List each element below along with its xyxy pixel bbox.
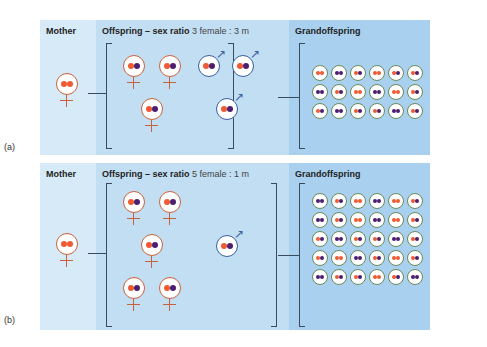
offspring-female-icon (159, 277, 181, 311)
grandoffspring-icon (350, 103, 366, 119)
grandoffspring-icon (312, 250, 328, 266)
grandoffspring-icon (369, 65, 385, 81)
offspring-female-icon (159, 191, 181, 225)
grandoffspring-icon (388, 65, 404, 81)
offspring-male-icon: ↗ (216, 227, 246, 257)
grandoffspring-icon (350, 193, 366, 209)
grandoffspring-icon (407, 65, 423, 81)
grandoffspring-icon (388, 103, 404, 119)
grandoffspring-icon (350, 84, 366, 100)
offspring-female-icon (123, 55, 145, 89)
grandoffspring-icon (331, 231, 347, 247)
panel-b: Mother Offspring – sex ratio 5 female : … (0, 163, 487, 330)
offspring-female-icon (159, 55, 181, 89)
mother-female-icon (56, 73, 78, 107)
grandoffspring-icon (331, 65, 347, 81)
grandoffspring-icon (407, 212, 423, 228)
grandoffspring-header: Grandoffspring (295, 169, 361, 179)
panel-a: Mother Offspring – sex ratio 3 female : … (0, 20, 487, 155)
offspring-female-icon (123, 277, 145, 311)
grandoffspring-icon (312, 103, 328, 119)
grandoffspring-icon (388, 84, 404, 100)
grandoffspring-icon (312, 212, 328, 228)
grandoffspring-icon (369, 193, 385, 209)
offspring-bracket-left (106, 183, 112, 327)
grandoffspring-icon (407, 269, 423, 285)
offspring-bracket-right (271, 183, 277, 327)
grandoffspring-icon (369, 269, 385, 285)
grandoffspring-icon (407, 193, 423, 209)
offspring-female-icon (123, 191, 145, 225)
grandoffspring-icon (388, 250, 404, 266)
grandoffspring-icon (369, 231, 385, 247)
offspring-female-icon (141, 98, 163, 132)
grandoffspring-icon (312, 84, 328, 100)
grandoffspring-icon (331, 250, 347, 266)
grandoffspring-icon (312, 65, 328, 81)
grandoffspring-icon (369, 250, 385, 266)
offspring-male-icon: ↗ (216, 90, 246, 120)
grandoffspring-icon (350, 231, 366, 247)
offspring-header: Offspring – sex ratio 3 female : 3 male (102, 26, 261, 36)
grandoffspring-icon (312, 269, 328, 285)
grandoffspring-icon (388, 231, 404, 247)
grandoffspring-icon (369, 103, 385, 119)
grandoffspring-icon (350, 65, 366, 81)
grandoffspring-icon (331, 212, 347, 228)
offspring-bracket-left (106, 43, 112, 149)
grand-bracket (299, 43, 305, 149)
grandoffspring-icon (331, 269, 347, 285)
grandoffspring-icon (331, 103, 347, 119)
offspring-female-icon (141, 234, 163, 268)
grandoffspring-icon (388, 212, 404, 228)
grandoffspring-header: Grandoffspring (295, 26, 361, 36)
grandoffspring-icon (369, 84, 385, 100)
grandoffspring-icon (407, 250, 423, 266)
grandoffspring-icon (388, 269, 404, 285)
grandoffspring-icon (312, 231, 328, 247)
grand-bracket (299, 183, 305, 327)
panel-label: (b) (4, 315, 15, 325)
grandoffspring-icon (369, 212, 385, 228)
grandoffspring-icon (407, 84, 423, 100)
offspring-header: Offspring – sex ratio 5 female : 1 male (102, 169, 261, 179)
grandoffspring-icon (407, 103, 423, 119)
offspring-male-icon: ↗ (198, 47, 228, 77)
grandoffspring-icon (350, 250, 366, 266)
grandoffspring-icon (350, 212, 366, 228)
grandoffspring-icon (388, 193, 404, 209)
grandoffspring-icon (407, 231, 423, 247)
grandoffspring-icon (350, 269, 366, 285)
grandoffspring-icon (331, 84, 347, 100)
offspring-male-icon: ↗ (232, 47, 262, 77)
mother-header: Mother (46, 26, 76, 36)
mother-header: Mother (46, 169, 76, 179)
panel-label: (a) (4, 142, 15, 152)
grandoffspring-icon (331, 193, 347, 209)
mother-female-icon (56, 233, 78, 267)
grandoffspring-icon (312, 193, 328, 209)
